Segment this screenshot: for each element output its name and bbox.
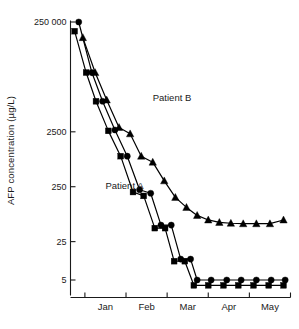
chart-plot-area: 250 0002500250255 JanFebMarAprMay Patien… bbox=[0, 0, 299, 329]
x-axis-ticks: JanFebMarAprMay bbox=[85, 293, 291, 312]
data-point-marker bbox=[238, 277, 244, 283]
data-series-group bbox=[72, 19, 289, 288]
y-axis-ticks: 250 0002500250255 bbox=[34, 17, 76, 285]
data-point-marker bbox=[83, 70, 89, 76]
data-point-marker bbox=[178, 256, 184, 262]
series-annotation-label: Patient A bbox=[105, 180, 144, 191]
data-point-marker bbox=[193, 212, 200, 219]
data-point-marker bbox=[187, 256, 193, 262]
series-line bbox=[75, 31, 284, 285]
data-point-marker bbox=[235, 282, 241, 288]
x-tick-label: Apr bbox=[221, 301, 236, 312]
y-tick-label: 5 bbox=[61, 275, 66, 285]
data-point-marker bbox=[221, 282, 227, 288]
y-tick-label: 250 000 bbox=[34, 17, 67, 27]
data-point-marker bbox=[253, 277, 259, 283]
data-point-marker bbox=[205, 282, 211, 288]
series-annotation-label: Patient B bbox=[153, 92, 192, 103]
data-point-marker bbox=[141, 193, 147, 199]
data-point-marker bbox=[161, 177, 168, 184]
series-line bbox=[79, 22, 285, 280]
data-point-marker bbox=[282, 277, 288, 283]
data-point-marker bbox=[171, 258, 177, 264]
data-point-marker bbox=[79, 34, 86, 41]
data-point-marker bbox=[191, 282, 197, 288]
chart-figure: AFP concentration (µg/L) 250 00025002502… bbox=[0, 0, 299, 329]
data-point-marker bbox=[268, 277, 274, 283]
data-point-marker bbox=[266, 282, 272, 288]
data-point-marker bbox=[224, 277, 230, 283]
series-annotations: Patient BPatient A bbox=[105, 92, 191, 190]
data-point-marker bbox=[148, 190, 154, 196]
data-point-marker bbox=[138, 152, 145, 159]
data-point-marker bbox=[124, 153, 130, 159]
data-point-marker bbox=[194, 277, 200, 283]
data-series bbox=[76, 19, 289, 283]
data-point-marker bbox=[72, 28, 78, 34]
data-point-marker bbox=[93, 98, 99, 104]
data-point-marker bbox=[208, 277, 214, 283]
data-point-marker bbox=[281, 282, 287, 288]
data-point-marker bbox=[149, 158, 156, 165]
data-series bbox=[72, 28, 287, 288]
data-point-marker bbox=[115, 124, 122, 131]
data-point-marker bbox=[152, 225, 158, 231]
x-tick-label: Jan bbox=[98, 301, 113, 312]
x-tick-label: Mar bbox=[180, 301, 196, 312]
data-point-marker bbox=[105, 128, 111, 134]
data-point-marker bbox=[158, 222, 164, 228]
data-point-marker bbox=[251, 282, 257, 288]
y-tick-label: 25 bbox=[56, 237, 66, 247]
data-point-marker bbox=[126, 130, 133, 137]
y-tick-label: 2500 bbox=[46, 127, 66, 137]
data-point-marker bbox=[168, 222, 174, 228]
data-point-marker bbox=[76, 19, 82, 25]
data-point-marker bbox=[280, 216, 287, 223]
y-tick-label: 250 bbox=[51, 182, 66, 192]
x-tick-label: Feb bbox=[138, 301, 154, 312]
data-point-marker bbox=[118, 153, 124, 159]
x-tick-label: May bbox=[261, 301, 279, 312]
